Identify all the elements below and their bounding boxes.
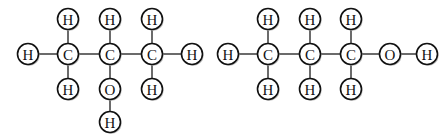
atom-label: C [63, 47, 73, 63]
atom-label: C [263, 47, 273, 63]
atom-label: H [263, 12, 274, 28]
bond-layer [38, 29, 418, 113]
atom-c-R-C1: C [258, 44, 280, 66]
atom-h-L-H-top-1: H [58, 9, 80, 31]
atom-h-R-H-top-3: H [341, 9, 363, 31]
atom-label: H [263, 82, 274, 98]
atom-h-R-H-bot-1: H [258, 79, 280, 101]
atom-label: H [223, 47, 234, 63]
atom-label: C [346, 47, 356, 63]
atom-label: H [105, 115, 116, 131]
atom-o-L-O: O [100, 79, 122, 101]
atom-label: H [105, 12, 116, 28]
atom-h-L-H-bot-1: H [58, 79, 80, 101]
atom-label: C [105, 47, 115, 63]
atom-label: O [385, 47, 396, 63]
atom-label: H [346, 82, 357, 98]
atom-h-L-H-top-2: H [100, 9, 122, 31]
atom-label: C [305, 47, 315, 63]
molecular-structure-diagram: HCCCHHHHHOHHHCCCOHHHHHHH [0, 0, 442, 140]
atom-c-L-C1: C [58, 44, 80, 66]
atom-label: H [346, 12, 357, 28]
atom-h-R-H-right: H [417, 44, 439, 66]
structure-canvas: HCCCHHHHHOHHHCCCOHHHHHHH [0, 0, 442, 140]
atom-label: H [187, 47, 198, 63]
atom-label: H [147, 82, 158, 98]
atom-c-L-C3: C [142, 44, 164, 66]
atom-label: C [147, 47, 157, 63]
atom-h-R-H-bot-2: H [300, 79, 322, 101]
atom-h-L-H-top-3: H [142, 9, 164, 31]
atom-label: H [23, 47, 34, 63]
atom-c-R-C2: C [300, 44, 322, 66]
atom-layer: HCCCHHHHHOHHHCCCOHHHHHHH [18, 9, 439, 134]
atom-h-R-H-top-2: H [300, 9, 322, 31]
atom-label: H [63, 82, 74, 98]
atom-h-L-H-right: H [182, 44, 204, 66]
atom-label: H [305, 12, 316, 28]
atom-h-R-H-left: H [218, 44, 240, 66]
atom-o-R-O: O [380, 44, 402, 66]
atom-h-L-H-bot-3: H [142, 79, 164, 101]
atom-label: H [63, 12, 74, 28]
atom-h-R-H-top-1: H [258, 9, 280, 31]
atom-label: H [147, 12, 158, 28]
atom-c-R-C3: C [341, 44, 363, 66]
atom-label: H [305, 82, 316, 98]
atom-h-L-H-hydroxyl: H [100, 112, 122, 134]
atom-label: O [105, 82, 116, 98]
atom-c-L-C2: C [100, 44, 122, 66]
atom-label: H [422, 47, 433, 63]
atom-h-R-H-bot-3: H [341, 79, 363, 101]
atom-h-L-H-left: H [18, 44, 40, 66]
